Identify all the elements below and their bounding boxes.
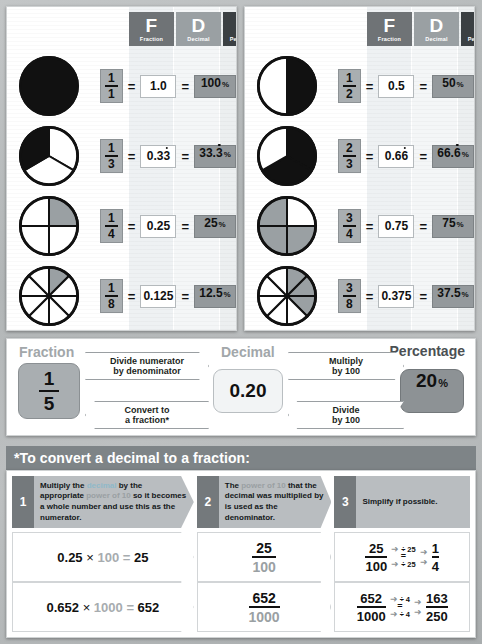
arrow-line-2: by 100 <box>332 366 360 376</box>
fdp-panels: F Fraction D Decimal P Percentage 11=1.0… <box>6 6 476 331</box>
step-number: 1 <box>12 476 34 528</box>
header-decimal: D Decimal <box>176 12 221 46</box>
header-fraction-label: Fraction <box>378 37 401 43</box>
numerator: 25 <box>369 542 383 555</box>
fdp-row: 23=0.66=66.6% <box>245 121 474 191</box>
step-1: 1Multiply the decimal by the appropriate… <box>12 476 194 528</box>
fdp-panel-right: F Fraction D Decimal P Percentage 12=0.5… <box>244 6 475 331</box>
panel-right-headers: F Fraction D Decimal P Percentage <box>367 12 475 46</box>
equals-sign: = <box>366 219 374 234</box>
arrow-line-1: Divide <box>332 405 359 415</box>
denominator: 100 <box>365 560 387 573</box>
pie-cell <box>245 195 330 257</box>
step-text-part: numerator <box>40 513 79 522</box>
numerator: 1 <box>108 282 115 295</box>
equals-sign: = <box>181 289 189 304</box>
fraction-bar <box>432 556 439 558</box>
example-step2-cell: 6521000 <box>197 582 332 632</box>
step-description: Multiply the decimal by the appropriate … <box>34 481 194 523</box>
percentage-cell: 37.5% <box>432 285 474 308</box>
fdp-panel-left: F Fraction D Decimal P Percentage 11=1.0… <box>6 6 237 331</box>
decimal-to-fraction-section: *To convert a decimal to a fraction: 1Mu… <box>6 446 476 638</box>
fdp-row: 12=0.5=50% <box>245 51 474 121</box>
denominator: 1 <box>108 88 115 101</box>
converter-percentage-value: 20 % <box>400 369 464 413</box>
fraction-bar <box>365 556 387 558</box>
calc-power: 1000 <box>94 600 123 615</box>
fdp-row: 18=0.125=12.5% <box>7 261 236 331</box>
step-3: 3Simplify if possible. <box>334 476 470 528</box>
arrow-icon: ➜ <box>420 548 428 557</box>
arrow-icon: ➜ <box>414 608 422 617</box>
fraction-cell: 11 <box>100 69 123 103</box>
multiply-sign: × <box>83 600 91 615</box>
simplification: 25100➜÷ 25=➜÷ 25➜➜14 <box>365 542 438 573</box>
numerator: 163 <box>426 592 448 605</box>
pie-chart <box>18 195 80 257</box>
recurring-dot: 6 <box>454 146 461 160</box>
example-step1-cell: 0.25 × 100 = 25 <box>12 532 194 582</box>
numerator: 1 <box>346 72 353 85</box>
equals-sign: = <box>419 149 427 164</box>
equals-sign: = <box>123 550 131 565</box>
fraction-bar <box>426 606 448 608</box>
simplification: 6521000➜÷ 4=➜÷ 4➜➜163250 <box>357 592 448 623</box>
recurring-dot: 3 <box>163 149 170 163</box>
step-number: 3 <box>334 476 356 528</box>
percent-sign: % <box>222 80 229 89</box>
examples-container: 0.25 × 100 = 252510025100➜÷ 25=➜÷ 25➜➜14… <box>12 532 470 632</box>
percentage-cell: 25% <box>194 215 236 238</box>
pie-chart <box>256 195 318 257</box>
pie-chart <box>256 55 318 117</box>
denominator: 8 <box>108 298 115 311</box>
fdp-row: 11=1.0=100% <box>7 51 236 121</box>
denominator: 4 <box>432 560 439 573</box>
conversion-diagram: Fraction Decimal Percentage 1 5 0.20 20 … <box>6 338 476 436</box>
decimal-cell: 0.375 <box>378 285 414 308</box>
decimal-cell: 0.125 <box>140 285 176 308</box>
divide-bottom: ÷ 4 <box>400 611 410 619</box>
numerator: 1 <box>432 542 439 555</box>
fraction: 163250 <box>426 592 448 623</box>
decimal-cell: 0.25 <box>140 215 176 238</box>
fraction: 6521000 <box>357 592 386 623</box>
header-fraction-label: Fraction <box>140 37 163 43</box>
denominator: 4 <box>108 228 115 241</box>
equals-sign: = <box>366 79 374 94</box>
header-decimal-letter: D <box>191 16 205 35</box>
denominator: 8 <box>346 298 353 311</box>
header-decimal: D Decimal <box>414 12 459 46</box>
numerator: 1 <box>108 142 115 155</box>
equals-sign: = <box>419 289 427 304</box>
steps-row: 1Multiply the decimal by the appropriate… <box>12 476 470 528</box>
panel-left-rows: 11=1.0=100%13=0.33=33.3%14=0.25=25%18=0.… <box>7 51 236 331</box>
step-text-part: denominator <box>225 513 273 522</box>
equals-sign: = <box>419 219 427 234</box>
calc-result: 652 <box>138 600 160 615</box>
denominator: 100 <box>252 560 275 574</box>
example-row: 0.25 × 100 = 252510025100➜÷ 25=➜÷ 25➜➜14 <box>12 532 470 582</box>
recurring-dot: 6 <box>401 149 408 163</box>
arrows-group: ➜÷ 4=➜÷ 4 <box>390 595 410 619</box>
recurring-dot: 3 <box>216 146 223 160</box>
arrow-icon: ➜ <box>390 610 398 619</box>
section-body: 1Multiply the decimal by the appropriate… <box>6 470 476 638</box>
numerator: 25 <box>256 541 272 555</box>
arrow-multiply-by-100: Multiply by 100 <box>288 352 404 380</box>
divide-bottom-line: ➜÷ 25 <box>391 560 416 569</box>
converter-percentage-number: 20 <box>416 370 437 392</box>
arrows-group-2: ➜➜ <box>420 548 428 567</box>
pie-cell <box>245 125 330 187</box>
section-title: *To convert a decimal to a fraction: <box>6 446 476 470</box>
arrow-line-2: by 100 <box>332 415 360 425</box>
fraction-bar <box>357 606 386 608</box>
equals-sign: = <box>128 219 136 234</box>
step-description: Simplify if possible. <box>356 497 443 508</box>
arrow-icon: ➜ <box>420 558 428 567</box>
step-description: The power of 10 that the decimal was mul… <box>219 481 332 523</box>
converter-fraction-value: 1 5 <box>18 363 80 419</box>
step-text-part: The <box>225 481 241 490</box>
header-decimal-letter: D <box>429 16 443 35</box>
example-step1-cell: 0.652 × 1000 = 652 <box>12 582 194 632</box>
converter-fraction-denominator: 5 <box>44 394 55 413</box>
